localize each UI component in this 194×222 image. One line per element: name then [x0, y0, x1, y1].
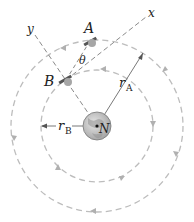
y-axis-label: y — [26, 22, 34, 36]
radius-a-label: r — [119, 75, 126, 90]
x-axis-label: x — [148, 6, 155, 20]
radius-b-subscript: B — [65, 126, 72, 136]
radius-b-label: r — [58, 118, 65, 133]
satellite-a-label: A — [82, 20, 94, 36]
line-b-to-a — [66, 41, 90, 80]
satellite-a — [83, 37, 97, 47]
radius-a-arrowhead — [138, 53, 143, 60]
radius-a-subscript: A — [125, 83, 133, 93]
orbit-diagram: A B x y θ N r A r B — [0, 0, 194, 222]
satellite-b-label: B — [43, 73, 54, 89]
planet-n-label: N — [98, 122, 110, 136]
angle-theta-label: θ — [79, 54, 86, 67]
radius-b-arrowhead — [41, 124, 47, 129]
